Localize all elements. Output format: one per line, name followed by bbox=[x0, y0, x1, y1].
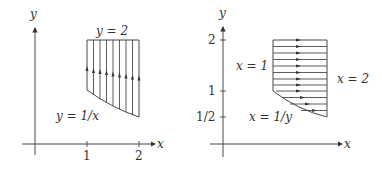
right-right-label: x = 2 bbox=[337, 72, 369, 86]
left-curve-label: y = 1/x bbox=[55, 109, 99, 123]
right-curve-label: x = 1/y bbox=[249, 110, 292, 124]
left-x-axis-label: x bbox=[157, 137, 164, 151]
right-region bbox=[273, 40, 327, 117]
left-tick-1: 1 bbox=[83, 149, 91, 163]
left-diagram: y x 1 2 y = 2 y = 1/x bbox=[22, 7, 164, 163]
right-x-axis-label: x bbox=[344, 137, 351, 151]
right-horizontal-lines bbox=[273, 47, 327, 111]
right-tick-1: 1 bbox=[208, 84, 216, 98]
right-diagram: y x 2 1 1/2 x = 1 x = 2 x = 1/y bbox=[196, 6, 369, 157]
right-tick-2: 2 bbox=[208, 33, 216, 47]
right-y-axis-label: y bbox=[218, 6, 226, 20]
right-arrow-markers bbox=[296, 39, 317, 113]
left-top-label: y = 2 bbox=[95, 24, 128, 38]
right-tick-half: 1/2 bbox=[196, 110, 215, 124]
diagram-canvas: y x 1 2 y = 2 y = 1/x bbox=[0, 0, 382, 170]
right-left-label: x = 1 bbox=[236, 59, 268, 73]
left-tick-2: 2 bbox=[135, 149, 143, 163]
left-y-axis-label: y bbox=[29, 7, 37, 21]
